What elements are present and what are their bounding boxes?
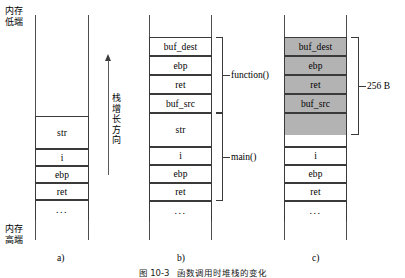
stack-cell: ret [284,183,347,201]
brace-256b [351,37,359,135]
brace-256b-tick [359,86,366,87]
figure-caption: 图 10-3函数调用时堆栈的变化 [0,266,405,278]
brace-256b-label: 256 B [367,81,390,91]
stack-cell-overwritten: ret [284,75,347,94]
stack-cell-overwritten: buf_dest [284,37,347,56]
panel-letter-c: c) [312,253,319,263]
stack-cell-overwritten: ebp [284,56,347,75]
stack-cell-ellipsis: ... [284,201,347,221]
stack-cell: ebp [284,165,347,183]
stack-cell: i [284,147,347,165]
stack-cell-overwritten: buf_src [284,94,347,113]
figure-caption-text: 函数调用时堆栈的变化 [177,268,267,278]
figure-caption-number: 图 10-3 [139,268,170,278]
stack-cell: str [284,113,347,147]
